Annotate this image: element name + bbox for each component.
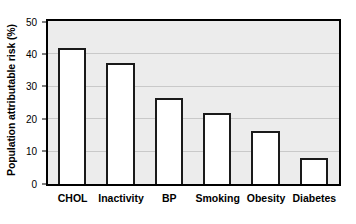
y-axis-tick-label: 50 [26, 16, 37, 27]
x-axis-tick-label: CHOL [58, 192, 88, 204]
y-axis-title: Population attributable risk (%) [5, 24, 17, 176]
y-axis-title-wrapper: Population attributable risk (%) [0, 0, 22, 200]
x-axis-tick-label: BP [162, 192, 177, 204]
plot-area [46, 19, 341, 186]
y-axis-tick-label: 10 [26, 146, 37, 157]
bar-chol [58, 48, 86, 184]
x-axis-tick-labels: CHOLInactivityBPSmokingObesityDiabetes [46, 192, 341, 214]
bar-smoking [203, 113, 231, 184]
bar-inactivity [106, 63, 134, 184]
y-axis-tick-label: 40 [26, 48, 37, 59]
bar-bp [155, 98, 183, 184]
x-axis-tick-label: Obesity [247, 192, 286, 204]
bar-chart-figure: Population attributable risk (%) 0102030… [0, 0, 356, 224]
x-axis-tick-label: Inactivity [98, 192, 144, 204]
bar-obesity [251, 131, 279, 184]
bar-diabetes [300, 158, 328, 184]
y-axis-tick-label: 30 [26, 81, 37, 92]
y-axis-tick-labels: 01020304050 [22, 0, 42, 224]
plot-inner [48, 21, 339, 184]
bars-group [48, 21, 339, 184]
x-axis-tick-label: Diabetes [292, 192, 336, 204]
y-axis-tick-label: 0 [31, 178, 37, 189]
y-axis-tick-label: 20 [26, 113, 37, 124]
x-axis-tick-label: Smoking [195, 192, 239, 204]
